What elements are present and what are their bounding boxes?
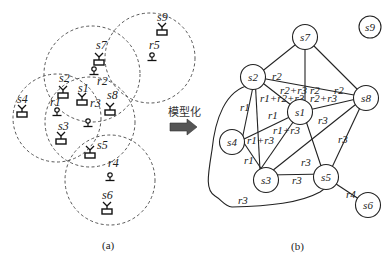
node-label: s1 (295, 106, 305, 118)
relay-label: r1 (50, 95, 61, 109)
node-s7: s7 (293, 25, 318, 50)
sensor-label: s5 (97, 138, 108, 152)
node-s6: s6 (356, 193, 381, 218)
node-s9: s9 (359, 16, 381, 38)
node-s4: s4 (220, 130, 245, 155)
relay-r4: r4 (106, 156, 119, 181)
panel-a: s1 s2 s3 s4 s5 s6 s7 s8 (13, 10, 195, 252)
edge-label: r1 (244, 154, 254, 166)
sensor-s8: s8 (105, 88, 118, 115)
node-label: s9 (365, 21, 375, 33)
node-label: s8 (361, 92, 371, 104)
edge-label: r3 (318, 114, 328, 126)
antenna-icon (102, 202, 112, 214)
relay-icon (84, 119, 93, 127)
node-s3: s3 (254, 168, 279, 193)
relay-label: r4 (108, 156, 119, 170)
node-label: s7 (300, 31, 310, 43)
sensor-s2: s2 (58, 71, 70, 98)
relay-r1: r1 (50, 95, 62, 116)
edge-label: r4 (346, 188, 356, 200)
antenna-icon (85, 146, 95, 158)
edge-label: r1 (240, 101, 250, 113)
sensor-label: s1 (78, 81, 89, 95)
sensor-label: s3 (58, 119, 69, 133)
edge-label: r3 (238, 194, 248, 206)
node-s8: s8 (354, 86, 379, 111)
transform-arrow: 模型化 (168, 105, 201, 135)
arrow-label: 模型化 (168, 105, 201, 119)
sensor-label: s7 (96, 38, 108, 52)
edge-label: r3 (338, 133, 348, 145)
antenna-icon (105, 103, 115, 115)
edge-label: r2 (272, 70, 282, 82)
relay-label: r3 (90, 96, 101, 110)
node-label: s3 (261, 174, 271, 186)
antenna-icon (94, 53, 104, 65)
sensor-s1: s1 (77, 81, 89, 105)
caption-a: (a) (102, 239, 115, 252)
edge-label: r3 (292, 174, 302, 186)
sensor-s7: s7 (94, 38, 108, 65)
node-label: s6 (363, 199, 373, 211)
relay-r2: r2 (90, 67, 108, 88)
sensor-label: s2 (59, 71, 70, 85)
node-label: s2 (248, 71, 258, 83)
edge-label: r1 (268, 109, 278, 121)
antenna-icon (17, 105, 27, 117)
sensor-label: s4 (17, 92, 28, 106)
sensor-label: s6 (102, 188, 113, 202)
relay-icon (148, 53, 157, 61)
sensor-s6: s6 (102, 188, 113, 214)
edge-label: r2+r3 (310, 92, 337, 104)
edge-label: r1+r3 (247, 134, 274, 146)
sensor-s9: s9 (157, 10, 168, 35)
node-label: s5 (321, 171, 331, 183)
range-circle-r5 (105, 13, 195, 103)
caption-b: (b) (291, 240, 304, 253)
edge-s2-s3 (255, 77, 260, 170)
relay-r5: r5 (148, 38, 160, 61)
sensor-s3: s3 (56, 119, 69, 144)
figure-canvas: s1 s2 s3 s4 s5 s6 s7 s8 (0, 0, 391, 263)
relay-icon (106, 173, 115, 181)
graph-edges (208, 37, 368, 207)
node-s1: s1 (288, 100, 313, 125)
panel-b: r2 r2+r3 r2 r2 r1+r2+r3 r2+r3 r1 r1 r1+r… (208, 16, 381, 253)
relay-label: r5 (149, 38, 160, 52)
sensor-s4: s4 (17, 92, 28, 117)
right-arrow-icon (170, 119, 197, 135)
sensor-label: s8 (107, 88, 118, 102)
sensor-label: s9 (157, 10, 168, 24)
edge-label: r1+r3 (273, 124, 300, 136)
antenna-icon (157, 23, 167, 35)
node-s2: s2 (241, 65, 266, 90)
node-label: s4 (227, 136, 237, 148)
antenna-icon (56, 132, 66, 144)
node-s5: s5 (314, 165, 339, 190)
relay-label: r2 (97, 74, 108, 88)
edge-label: r3 (301, 156, 311, 168)
